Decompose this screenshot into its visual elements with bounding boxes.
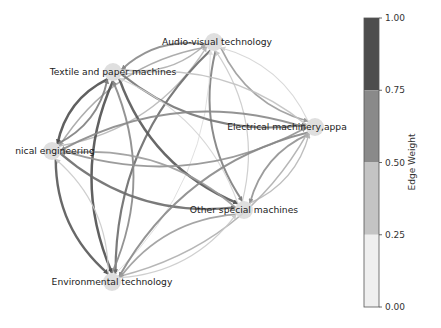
edge-en-to-os [120,214,236,277]
node-label-os: Other special machines [190,204,298,215]
colorbar-bin-3 [364,235,379,307]
edge-en-to-me [56,159,109,274]
colorbar-ticks: 1.000.750.500.250.00 [379,13,405,312]
node-label-en: Environmental technology [52,276,173,287]
colorbar: 1.000.750.500.250.00 Edge Weight [364,13,417,312]
colorbar-tick-label: 0.00 [385,302,405,312]
colorbar-tick-label: 0.25 [385,230,405,240]
edge-me-to-en [56,159,109,274]
edge-layer [56,43,309,278]
colorbar-tick-label: 1.00 [385,13,405,23]
edge-os-to-me [61,152,236,207]
edge-os-to-en [120,214,236,277]
colorbar-bin-2 [364,163,379,235]
node-label-me: nical engineering [15,145,95,156]
edge-tp-to-os [119,79,238,204]
colorbar-label: Edge Weight [407,133,417,190]
edge-tp-to-me [58,79,108,144]
colorbar-bin-0 [364,18,379,90]
colorbar-tick-label: 0.50 [385,158,405,168]
colorbar-bin-1 [364,90,379,162]
node-label-el: Electrical machinery,appa [227,121,347,132]
colorbar-tick-label: 0.75 [385,85,405,95]
network-diagram: Audio-visual technologyTextile and paper… [0,0,441,328]
node-label-tp: Textile and paper machines [49,66,177,77]
edge-os-to-tp [119,79,238,204]
colorbar-bins [364,18,379,307]
node-label-av: Audio-visual technology [162,36,273,47]
edge-me-to-tp [58,79,108,144]
